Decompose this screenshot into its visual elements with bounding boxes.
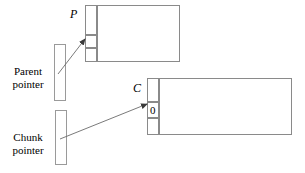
chunk-payload-box: [159, 78, 292, 135]
parent-cell-top: [85, 5, 97, 35]
parent-pointer-slot: [54, 44, 66, 101]
parent-node-label: P: [70, 8, 77, 20]
chunk-cell-bottom: [147, 118, 159, 135]
parent-payload-box: [97, 5, 180, 62]
chunk-cell-top: [147, 78, 159, 102]
parent-cell-middle: [85, 35, 97, 48]
chunk-cell-middle: 0: [147, 102, 159, 118]
chunk-pointer-label-line1: Chunk: [4, 131, 52, 144]
chunk-pointer-slot: [55, 110, 67, 165]
parent-pointer-label: Parent pointer: [4, 65, 52, 91]
chunk-pointer-label: Chunk pointer: [4, 131, 52, 157]
chunk-pointer-label-line2: pointer: [4, 144, 52, 157]
figure-canvas: P C 0 Parent pointer Chunk pointer: [0, 0, 305, 173]
chunk-node-label: C: [133, 82, 141, 94]
chunk-pointer-arrow: [60, 104, 147, 139]
parent-pointer-label-line1: Parent: [4, 65, 52, 78]
parent-pointer-label-line2: pointer: [4, 78, 52, 91]
parent-cell-bottom: [85, 48, 97, 62]
